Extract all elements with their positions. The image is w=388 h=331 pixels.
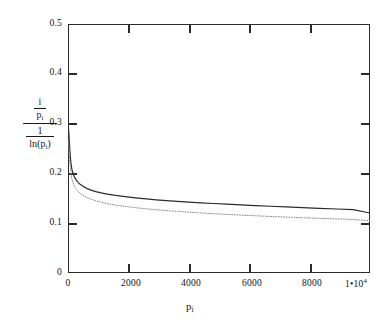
figure: 0.5 0.4 0.3 0.2 0.1 0 0 2000 4000 6000 8… — [0, 0, 388, 331]
plot-area — [68, 24, 370, 273]
y-axis-label-paren-close: ) — [47, 138, 51, 149]
y-axis-label-num-num: i — [34, 97, 47, 109]
y-axis-label: i pi 1 ln(pi) — [14, 97, 66, 150]
y-axis-label-outer-fraction: i pi 1 ln(pi) — [23, 97, 57, 150]
y-axis-label-num-den-sub: i — [42, 113, 44, 120]
ytick-label-3: 0.2 — [34, 167, 62, 177]
y-axis-label-num-den: pi — [34, 109, 47, 121]
xtick-label-0: 0 — [54, 278, 82, 288]
ytick-label-0: 0.5 — [34, 18, 62, 28]
ytick-label-5: 0 — [34, 267, 62, 277]
xtick-label-4: 8000 — [292, 278, 332, 288]
y-axis-label-den-den: ln(pi) — [26, 137, 54, 150]
y-axis-label-numerator: i pi — [23, 97, 57, 124]
ytick-label-4: 0.1 — [34, 217, 62, 227]
y-axis-label-den-fn: ln — [29, 138, 37, 149]
curve-canvas — [68, 24, 370, 273]
y-axis-label-den-fraction: 1 ln(pi) — [26, 126, 54, 151]
ytick-label-1: 0.4 — [34, 67, 62, 77]
xtick-label-3: 6000 — [232, 278, 272, 288]
y-axis-label-den-num: 1 — [26, 126, 54, 138]
y-axis-label-num-fraction: i pi — [34, 97, 47, 121]
series-line-solid — [68, 128, 370, 213]
xtick-label-2: 4000 — [171, 278, 211, 288]
x-axis-label-sub: i — [192, 305, 194, 314]
x-axis-label: pi — [186, 300, 194, 314]
y-axis-label-denominator: 1 ln(pi) — [23, 124, 57, 151]
xtick-label-5: 1•104 — [345, 277, 388, 289]
xtick-label-1: 2000 — [111, 278, 151, 288]
xtick-label-5-text: 1•10 — [345, 279, 363, 289]
